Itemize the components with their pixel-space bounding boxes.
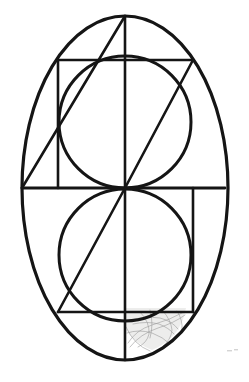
geometric-figure: [0, 0, 249, 382]
drawing-canvas: [0, 0, 249, 382]
